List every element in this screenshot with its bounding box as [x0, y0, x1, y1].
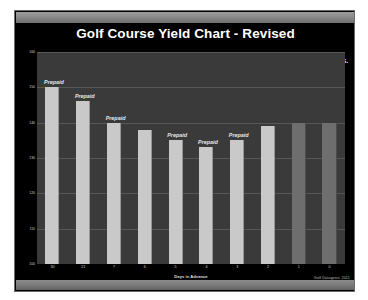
x-tick-label: 1 — [283, 265, 314, 269]
x-tick-label: 6 — [129, 265, 160, 269]
bar-prepaid-label: Prepaid — [198, 139, 218, 145]
bar-slot — [314, 52, 345, 264]
y-tick-label: 120 — [15, 191, 35, 195]
bar-series: PrepaidPrepaidPrepaidPrepaidPrepaidPrepa… — [37, 52, 345, 264]
bar-slot — [129, 52, 160, 264]
bar[interactable] — [76, 101, 90, 264]
x-axis-label: Days in Advance — [37, 274, 345, 279]
x-tick-labels: 302176543210 — [37, 265, 345, 269]
bar[interactable] — [45, 87, 59, 264]
bar[interactable] — [230, 140, 244, 264]
bar-slot: Prepaid — [191, 52, 222, 264]
slide-top-chrome-bar — [16, 12, 355, 23]
x-tick-label: 21 — [68, 265, 99, 269]
bar-prepaid-label: Prepaid — [229, 132, 249, 138]
bar-slot: Prepaid — [160, 52, 191, 264]
bar[interactable] — [261, 126, 275, 264]
x-tick-label: 0 — [314, 265, 345, 269]
bar-slot: Prepaid — [68, 52, 99, 264]
watermark-text: Golf Datagenic 2011 — [314, 276, 350, 280]
plot-area: PrepaidPrepaidPrepaidPrepaidPrepaidPrepa… — [37, 52, 345, 264]
bar-prepaid-label: Prepaid — [75, 93, 95, 99]
bar[interactable] — [199, 147, 213, 264]
x-tick-label: 4 — [191, 265, 222, 269]
bar-slot — [253, 52, 284, 264]
bar-prepaid-label: Prepaid — [167, 132, 187, 138]
bar-slot — [283, 52, 314, 264]
y-tick-label: 110 — [15, 227, 35, 231]
bar[interactable] — [138, 130, 152, 264]
y-tick-label: 160 — [15, 50, 35, 54]
bar[interactable] — [107, 123, 121, 264]
bar-slot: Prepaid — [37, 52, 68, 264]
bar-slot: Prepaid — [99, 52, 130, 264]
bar-prepaid-label: Prepaid — [44, 79, 64, 85]
bar[interactable] — [169, 140, 183, 264]
y-tick-label: 130 — [15, 156, 35, 160]
x-tick-label: 3 — [222, 265, 253, 269]
bar-slot: Prepaid — [222, 52, 253, 264]
chart-title: Golf Course Yield Chart - Revised — [15, 26, 355, 41]
bar[interactable] — [322, 123, 336, 264]
x-tick-label: 7 — [99, 265, 130, 269]
y-tick-label: 100 — [15, 262, 35, 266]
y-tick-label: 140 — [15, 121, 35, 125]
slide-bottom-chrome-bar — [16, 280, 355, 290]
bar[interactable] — [292, 123, 306, 264]
slide-canvas: Golf Course Yield Chart - Revised 40% of… — [14, 10, 355, 292]
x-tick-label: 5 — [160, 265, 191, 269]
x-tick-label: 2 — [253, 265, 284, 269]
bar-prepaid-label: Prepaid — [106, 115, 126, 121]
x-tick-label: 30 — [37, 265, 68, 269]
y-tick-label: 150 — [15, 85, 35, 89]
